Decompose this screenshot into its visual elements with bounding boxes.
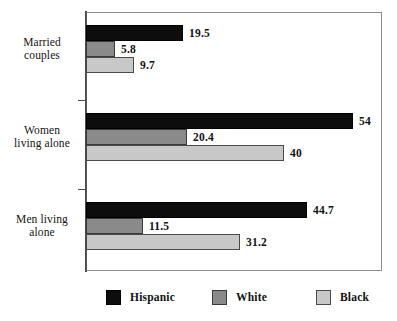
bar-black-1 bbox=[86, 145, 284, 161]
legend-label: White bbox=[236, 291, 267, 303]
bar-value-label: 19.5 bbox=[189, 27, 210, 39]
category-label-line: Men living bbox=[2, 213, 82, 227]
bar-value-label: 54 bbox=[359, 115, 371, 127]
bar-row: 40 bbox=[86, 145, 382, 161]
legend-label: Black bbox=[340, 291, 369, 303]
bar-value-label: 20.4 bbox=[193, 131, 214, 143]
bar-chart: MarriedcouplesWomenliving aloneMen livin… bbox=[0, 0, 397, 321]
bar-row: 31.2 bbox=[86, 234, 382, 250]
category-label-line: Women bbox=[2, 124, 82, 138]
legend-item-black[interactable]: Black bbox=[316, 288, 369, 306]
bar-hispanic-2 bbox=[86, 202, 307, 218]
bar-row: 19.5 bbox=[86, 25, 382, 41]
bar-row: 44.7 bbox=[86, 202, 382, 218]
bar-value-label: 31.2 bbox=[246, 236, 267, 248]
category-label-line: living alone bbox=[2, 137, 82, 151]
bar-value-label: 5.8 bbox=[121, 43, 136, 55]
category-axis-tick-0 bbox=[78, 100, 85, 101]
category-label-2: Men livingalone bbox=[2, 213, 82, 240]
bar-row: 9.7 bbox=[86, 57, 382, 73]
legend-item-white[interactable]: White bbox=[212, 288, 267, 306]
legend-item-hispanic[interactable]: Hispanic bbox=[106, 288, 175, 306]
bar-row: 5.8 bbox=[86, 41, 382, 57]
legend-label: Hispanic bbox=[130, 291, 175, 303]
bar-white-1 bbox=[86, 129, 187, 145]
chart-legend: HispanicWhiteBlack bbox=[86, 288, 382, 308]
bar-black-0 bbox=[86, 57, 134, 73]
bar-row: 20.4 bbox=[86, 129, 382, 145]
bar-value-label: 44.7 bbox=[313, 204, 334, 216]
legend-swatch-icon bbox=[106, 290, 121, 305]
bar-hispanic-0 bbox=[86, 25, 183, 41]
category-label-line: couples bbox=[2, 49, 82, 63]
category-label-1: Womenliving alone bbox=[2, 124, 82, 151]
legend-swatch-icon bbox=[212, 290, 227, 305]
bar-value-label: 11.5 bbox=[149, 220, 169, 232]
bar-row: 11.5 bbox=[86, 218, 382, 234]
bar-row: 54 bbox=[86, 113, 382, 129]
bar-white-2 bbox=[86, 218, 143, 234]
category-label-line: Married bbox=[2, 36, 82, 50]
category-label-line: alone bbox=[2, 226, 82, 240]
category-label-0: Marriedcouples bbox=[2, 36, 82, 63]
bar-hispanic-1 bbox=[86, 113, 353, 129]
legend-swatch-icon bbox=[316, 290, 331, 305]
category-axis-tick-1 bbox=[78, 189, 85, 190]
bar-white-0 bbox=[86, 41, 115, 57]
bar-value-label: 9.7 bbox=[140, 59, 155, 71]
bar-black-2 bbox=[86, 234, 240, 250]
bar-value-label: 40 bbox=[290, 147, 302, 159]
